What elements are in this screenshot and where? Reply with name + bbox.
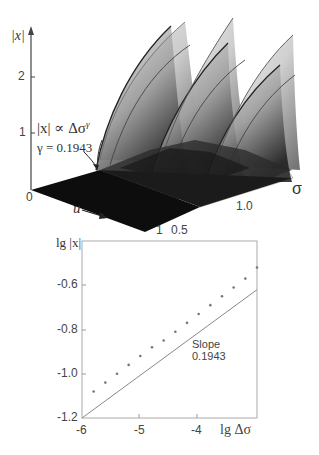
u-tick-1: 1 bbox=[156, 223, 163, 237]
data-point bbox=[92, 390, 95, 393]
x-tick--5: -5 bbox=[134, 423, 145, 437]
data-point bbox=[127, 364, 130, 367]
data-point bbox=[174, 330, 177, 333]
sigma-axis-label: σ bbox=[292, 180, 302, 198]
data-point bbox=[244, 277, 247, 280]
data-point bbox=[186, 322, 189, 325]
data-point bbox=[197, 313, 200, 316]
slope-value: 0.1943 bbox=[192, 350, 226, 362]
data-point bbox=[256, 266, 259, 269]
y-tick--0.8: -0.8 bbox=[57, 322, 78, 336]
sigma-tick-0.5: 0.5 bbox=[171, 223, 188, 237]
gamma-annotation: γ = 0.1943 bbox=[37, 140, 92, 156]
plot-frame bbox=[82, 241, 257, 418]
u-axis-label: u bbox=[73, 200, 81, 217]
y-tick--0.6: -0.6 bbox=[57, 277, 78, 291]
data-point bbox=[116, 372, 119, 375]
proportionality-annotation: |x| ∝ Δσγ bbox=[37, 119, 89, 137]
formula-exponent: γ bbox=[86, 119, 90, 129]
y-axis-label: lg |x| bbox=[56, 235, 81, 251]
y-tick--1.0: -1.0 bbox=[57, 366, 78, 380]
x-tick--6: -6 bbox=[76, 423, 87, 437]
data-point bbox=[139, 355, 142, 358]
data-point bbox=[209, 304, 212, 307]
y-tick--1.2: -1.2 bbox=[57, 410, 78, 424]
origin-tick-0: 0 bbox=[26, 190, 33, 204]
fit-line bbox=[82, 290, 257, 418]
z-axis-arrow-icon bbox=[28, 26, 34, 35]
data-point bbox=[151, 346, 154, 349]
z-axis-label: |x| bbox=[11, 28, 25, 44]
data-point bbox=[162, 339, 165, 342]
x-tick--4: -4 bbox=[191, 423, 202, 437]
plot-series bbox=[82, 266, 258, 418]
data-point bbox=[104, 381, 107, 384]
x-axis-label: lg Δσ bbox=[220, 422, 251, 438]
data-point bbox=[221, 295, 224, 298]
data-point bbox=[232, 286, 235, 289]
slope-label: Slope bbox=[192, 338, 220, 350]
sigma-tick-1.0: 1.0 bbox=[236, 199, 253, 213]
z-tick-1: 1 bbox=[19, 125, 26, 139]
formula-text: |x| ∝ Δσ bbox=[37, 120, 86, 136]
z-tick-2: 2 bbox=[18, 69, 25, 83]
